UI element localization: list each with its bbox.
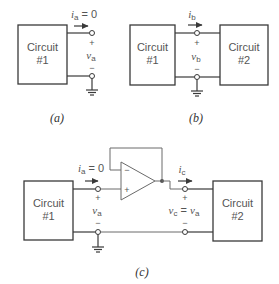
- output-voltage-label: vc = va: [169, 204, 200, 218]
- circuit-1-label-line1: Circuit: [33, 197, 64, 209]
- circuit-2-label-line2: #2: [231, 210, 243, 222]
- voltage-label: vb: [191, 50, 201, 64]
- plus-sign: +: [194, 38, 199, 48]
- terminal-top: [90, 31, 95, 36]
- circuit-1-label-line2: #1: [36, 54, 48, 66]
- output-terminal-top: [183, 187, 188, 192]
- circuit-2-label-line2: #2: [238, 54, 250, 66]
- output-minus-sign: −: [182, 218, 187, 228]
- output-terminal-bottom: [183, 230, 188, 235]
- output-current-label: ic: [178, 163, 185, 177]
- input-plus-sign: +: [95, 193, 100, 203]
- output-wire: [162, 181, 183, 189]
- figure-c: Circuit #1 Circuit #2 − +: [24, 148, 262, 279]
- input-terminal-bottom: [96, 230, 101, 235]
- inverting-input-sign: −: [124, 165, 129, 175]
- input-voltage-label: va: [92, 204, 102, 218]
- opamp-icon: − +: [121, 162, 155, 200]
- ground-icon: [86, 79, 98, 96]
- terminal-bottom: [90, 74, 95, 79]
- current-label: ib: [188, 8, 196, 22]
- current-label: ia = 0: [71, 8, 97, 22]
- circuit-1-label-line1: Circuit: [137, 41, 168, 53]
- caption-c: (c): [135, 265, 148, 279]
- minus-sign: −: [194, 64, 199, 74]
- circuit-1-label-line1: Circuit: [27, 41, 58, 53]
- circuit-1-label-line2: #1: [146, 54, 158, 66]
- terminal-top: [195, 31, 200, 36]
- circuit-2-label-line1: Circuit: [228, 41, 259, 53]
- circuit-2-label-line1: Circuit: [222, 197, 253, 209]
- input-current-label: ia = 0: [78, 162, 104, 176]
- caption-b: (b): [189, 111, 203, 125]
- ground-icon: [92, 235, 104, 253]
- plus-sign: +: [89, 38, 94, 48]
- circuit-1-label-line2: #1: [42, 210, 54, 222]
- terminal-bottom: [195, 75, 200, 80]
- input-minus-sign: −: [95, 218, 100, 228]
- input-terminal-top: [96, 187, 101, 192]
- minus-sign: −: [89, 63, 94, 73]
- figure-b: Circuit #1 Circuit #2 ib + vb − (b): [130, 8, 268, 125]
- circuit-diagram: Circuit #1 ia = 0 + va − (a) Circuit #1 …: [0, 0, 279, 284]
- caption-a: (a): [50, 111, 64, 125]
- figure-a: Circuit #1 ia = 0 + va − (a): [18, 8, 98, 125]
- noninverting-input-sign: +: [124, 185, 129, 195]
- output-plus-sign: +: [182, 193, 187, 203]
- voltage-label: va: [86, 49, 96, 63]
- ground-icon: [191, 80, 203, 97]
